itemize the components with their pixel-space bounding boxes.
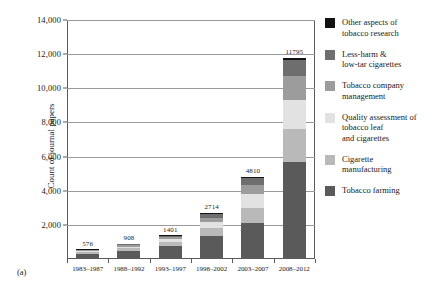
bar-value-label: 1401 [163,226,177,234]
legend-swatch-icon [325,18,335,28]
bar-segment[interactable] [159,246,182,259]
bar-slot: 11795 [274,20,315,259]
legend-label: Tobacco farming [342,185,400,196]
x-tick-label: 2008–2012 [274,265,315,273]
bar-series-group: 57690814012714481011795 [67,20,315,259]
x-tick-label: 1988–1992 [108,265,149,273]
y-tick-label: 10,000 [37,83,61,93]
bar-segment[interactable] [241,185,264,194]
x-tick-mark [67,259,68,263]
legend-label: Tobacco company management [342,80,404,101]
x-axis-ticks [67,259,315,264]
bar-segment[interactable] [241,178,264,185]
legend-item[interactable]: Quality assessment of tobacco leaf and c… [325,112,443,144]
bar-value-label: 11795 [285,48,303,56]
x-tick-mark [191,259,192,263]
x-axis-labels: 1983–19871988–19921993–19971998–20022003… [67,265,315,273]
bar-value-label: 4810 [246,167,260,175]
legend-item[interactable]: Tobacco company management [325,80,443,101]
y-axis-title: Count of journal papers [46,103,56,188]
legend-label: Quality assessment of tobacco leaf and c… [342,112,417,144]
bar-segment[interactable] [283,162,306,259]
bar-value-label: 908 [124,234,135,242]
x-tick-mark [274,259,275,263]
x-tick-mark [150,259,151,263]
y-tick-label: 4,000 [41,186,61,196]
stacked-bar[interactable]: 908 [117,244,140,260]
bar-segment[interactable] [241,194,264,207]
legend-swatch-icon [325,155,335,165]
legend: Other aspects of tobacco researchLess-ha… [325,17,443,207]
bar-slot: 2714 [191,20,232,259]
legend-item[interactable]: Tobacco farming [325,185,443,196]
legend-swatch-icon [325,81,335,91]
bar-segment[interactable] [241,223,264,259]
bar-slot: 1401 [150,20,191,259]
bar-value-label: 2714 [204,203,218,211]
bar-segment[interactable] [241,208,264,223]
y-tick-label: 12,000 [37,49,61,59]
y-tick-label: 8,000 [41,117,61,127]
legend-label: Cigarette manufacturing [342,154,392,175]
stacked-bar[interactable]: 2714 [200,213,223,259]
y-tick-label: 6,000 [41,152,61,162]
bar-segment[interactable] [283,129,306,161]
x-tick-label: 1983–1987 [67,265,108,273]
legend-swatch-icon [325,50,335,60]
bar-slot: 908 [108,20,149,259]
bar-segment[interactable] [283,76,306,100]
stacked-bar[interactable]: 11795 [283,58,306,259]
y-tick-label: 14,000 [37,15,61,25]
x-tick-mark [108,259,109,263]
bar-segment[interactable] [200,236,223,259]
bar-segment[interactable] [283,60,306,76]
bar-slot: 576 [67,20,108,259]
legend-label: Less-harm & low-tar cigarettes [342,49,401,70]
legend-label: Other aspects of tobacco research [342,17,399,38]
bar-segment[interactable] [117,251,140,259]
legend-item[interactable]: Less-harm & low-tar cigarettes [325,49,443,70]
x-tick-mark [232,259,233,263]
y-tick-label: 2,000 [41,220,61,230]
legend-swatch-icon [325,186,335,196]
bar-segment[interactable] [200,228,223,236]
stacked-bar[interactable]: 576 [76,249,99,259]
figure-panel: Count of journal papers 14,00012,00010,0… [0,0,443,291]
legend-item[interactable]: Cigarette manufacturing [325,154,443,175]
x-tick-label: 1998–2002 [191,265,232,273]
x-tick-label: 2003–2007 [232,265,273,273]
bar-segment[interactable] [283,100,306,129]
panel-caption: (a) [17,267,26,277]
stacked-bar[interactable]: 4810 [241,177,264,259]
legend-swatch-icon [325,113,335,123]
x-tick-label: 1993–1997 [150,265,191,273]
legend-item[interactable]: Other aspects of tobacco research [325,17,443,38]
bar-value-label: 576 [82,240,93,248]
plot-area: 14,00012,00010,0008,0006,0004,0002,000 5… [67,20,315,259]
stacked-bar[interactable]: 1401 [159,235,182,259]
x-tick-mark [315,259,316,263]
bar-slot: 4810 [232,20,273,259]
